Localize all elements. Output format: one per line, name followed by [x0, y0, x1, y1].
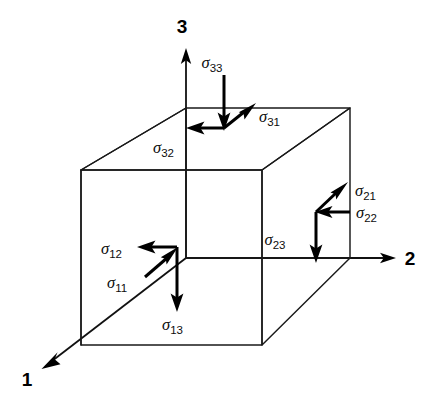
sigma-21-label: σ21	[355, 181, 376, 202]
sigma-13-arrow	[171, 247, 184, 312]
stress-group-top-face: σ33 σ31 σ32	[153, 53, 280, 159]
sigma-12-label: σ12	[101, 239, 122, 260]
stress-tensor-figure: 3 2 1	[0, 0, 443, 406]
sigma-11-label: σ11	[107, 273, 127, 294]
axis-1-arrowhead	[42, 352, 61, 369]
sigma-32-label: σ32	[153, 138, 174, 159]
cube-group	[81, 108, 350, 345]
cube-edge-top-left-diagonal	[81, 108, 186, 170]
sigma-23-label: σ23	[265, 230, 286, 251]
stress-cube-diagram: 3 2 1	[0, 0, 443, 406]
sigma-31-label: σ31	[259, 107, 280, 128]
axis-2-label: 2	[405, 248, 416, 269]
sigma-22-label: σ22	[356, 203, 377, 224]
sigma-21-arrow	[316, 182, 348, 212]
sigma-32-arrow	[186, 122, 224, 135]
axis-1-label: 1	[22, 369, 33, 390]
stress-group-right-face: σ21 σ22 σ23	[265, 181, 377, 263]
cube-right-face	[262, 108, 350, 345]
axis-3: 3	[177, 16, 191, 258]
sigma-13-label: σ13	[162, 315, 183, 336]
sigma-23-arrow	[310, 212, 323, 263]
sigma-31-arrowhead	[239, 103, 256, 120]
sigma-33-label: σ33	[202, 53, 223, 74]
cube-top-face	[81, 108, 350, 170]
sigma-11-arrow	[145, 247, 178, 277]
stress-group-front-face: σ12 σ11 σ13	[101, 239, 183, 336]
axis-3-label: 3	[177, 16, 188, 37]
